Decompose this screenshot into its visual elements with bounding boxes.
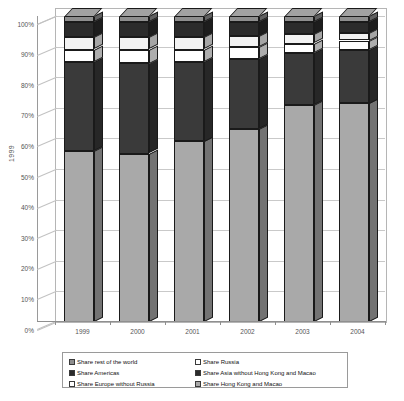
legend-item-label: Share Americas [77, 370, 119, 377]
bar-1999[interactable] [64, 16, 94, 322]
gridline [55, 200, 385, 201]
legend-swatch-icon [195, 370, 201, 376]
segment-face [229, 47, 259, 59]
legend-item[interactable]: Share rest of the world [69, 357, 155, 367]
bar-segment[interactable] [64, 16, 94, 22]
bar-segment[interactable] [284, 44, 314, 53]
bar-segment[interactable] [339, 16, 369, 22]
x-tick [385, 321, 386, 325]
x-tick [55, 321, 56, 325]
segment-face [284, 44, 314, 53]
bar-segment[interactable] [229, 22, 259, 36]
legend-item[interactable]: Share Europe without Russia [69, 379, 155, 389]
bar-segment[interactable] [174, 62, 204, 142]
bar-segment[interactable] [339, 33, 369, 41]
bar-segment[interactable] [174, 22, 204, 37]
segment-face [339, 22, 369, 33]
y-tick-connector [37, 261, 57, 270]
bar-segment[interactable] [119, 63, 149, 153]
x-tick [275, 321, 276, 325]
y-tick-label: 10% [6, 296, 34, 303]
bar-segment[interactable] [119, 22, 149, 37]
bar-segment[interactable] [284, 16, 314, 22]
segment-face [284, 53, 314, 105]
legend-swatch-icon [195, 381, 201, 387]
y-tick-label: 40% [6, 204, 34, 211]
bar-segment[interactable] [119, 16, 149, 22]
legend-item[interactable]: Share Asia without Hong Kong and Macao [195, 368, 316, 378]
y-tick-label: 100% [6, 21, 34, 28]
segment-face [119, 37, 149, 49]
y-tick-label: 0% [6, 327, 34, 334]
bar-2003[interactable] [284, 16, 314, 322]
bar-segment[interactable] [339, 50, 369, 104]
bar-segment[interactable] [339, 41, 369, 50]
segment-face [339, 33, 369, 41]
bar-segment[interactable] [339, 22, 369, 33]
bar-segment[interactable] [64, 22, 94, 37]
segment-face [64, 22, 94, 37]
bar-segment[interactable] [119, 50, 149, 64]
segment-face [174, 22, 204, 37]
segment-face [64, 151, 94, 322]
bar-segment[interactable] [174, 16, 204, 22]
segment-face [339, 103, 369, 322]
bar-segment[interactable] [339, 103, 369, 322]
plot-area [55, 8, 387, 323]
y-tick-connector [37, 291, 57, 300]
legend-swatch-icon [69, 381, 75, 387]
legend-item-label: Share Hong Kong and Macao [203, 381, 282, 388]
y-tick-connector [37, 16, 57, 25]
segment-side [369, 99, 378, 322]
x-tick-label: 1999 [63, 328, 103, 335]
legend-item-label: Share Russia [203, 359, 239, 366]
bar-segment[interactable] [64, 62, 94, 151]
bar-segment[interactable] [229, 47, 259, 59]
segment-side [94, 58, 103, 151]
segment-side [259, 54, 268, 129]
x-tick-label: 2001 [173, 328, 213, 335]
segment-face [174, 37, 204, 49]
bar-segment[interactable] [229, 59, 259, 129]
bar-segment[interactable] [174, 50, 204, 62]
bar-segment[interactable] [229, 36, 259, 47]
bar-segment[interactable] [64, 151, 94, 322]
segment-face [284, 105, 314, 322]
y-tick-connector [37, 108, 57, 117]
bar-segment[interactable] [174, 141, 204, 322]
x-axis-line [37, 321, 385, 322]
segment-face [119, 50, 149, 64]
y-axis-title: 1999 [8, 134, 15, 174]
segment-side [204, 137, 213, 322]
bar-2004[interactable] [339, 16, 369, 322]
bar-segment[interactable] [284, 105, 314, 322]
x-tick-label: 2002 [228, 328, 268, 335]
legend-item[interactable]: Share Hong Kong and Macao [195, 379, 316, 389]
bar-segment[interactable] [64, 37, 94, 49]
bar-2002[interactable] [229, 16, 259, 322]
chart-legend: Share rest of the worldShare AmericasSha… [62, 352, 348, 388]
legend-item[interactable]: Share Americas [69, 368, 155, 378]
bar-2000[interactable] [119, 16, 149, 322]
y-tick-label: 60% [6, 143, 34, 150]
bar-segment[interactable] [229, 129, 259, 322]
segment-side [149, 59, 158, 154]
segment-face [229, 22, 259, 36]
bar-segment[interactable] [174, 37, 204, 49]
legend-item[interactable]: Share Russia [195, 357, 316, 367]
segment-face [229, 59, 259, 129]
bar-segment[interactable] [284, 22, 314, 34]
bar-segment[interactable] [284, 34, 314, 43]
bar-2001[interactable] [174, 16, 204, 322]
segment-face [284, 22, 314, 34]
bar-segment[interactable] [284, 53, 314, 105]
segment-face [174, 141, 204, 322]
bar-segment[interactable] [229, 16, 259, 22]
bar-segment[interactable] [64, 50, 94, 62]
bar-segment[interactable] [119, 37, 149, 49]
gridline [55, 47, 385, 48]
segment-face [119, 154, 149, 322]
x-tick-label: 2003 [283, 328, 323, 335]
y-tick-label: 50% [6, 174, 34, 181]
bar-segment[interactable] [119, 154, 149, 322]
